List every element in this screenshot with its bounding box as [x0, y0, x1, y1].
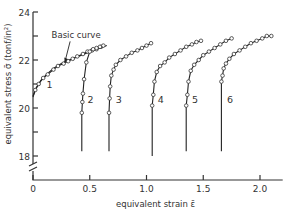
curve-number-label: 3 — [116, 94, 122, 105]
chart-svg: 1820222400.51.01.52.0equivalent strain ε… — [0, 0, 301, 212]
data-point-marker — [184, 45, 188, 49]
data-point-marker — [81, 92, 85, 96]
data-point-marker — [33, 88, 37, 92]
data-point-marker — [190, 43, 194, 47]
data-point-marker — [81, 52, 85, 56]
data-point-marker — [158, 64, 162, 68]
data-point-marker — [230, 37, 234, 41]
data-point-marker — [145, 44, 149, 48]
x-axis-title: equivalent strain ε̄ — [116, 199, 196, 209]
series-6 — [220, 34, 274, 151]
curve-line — [33, 46, 107, 96]
y-tick-label: 18 — [19, 152, 31, 162]
curve-number-label: 5 — [192, 94, 198, 105]
x-tick-label: 0.5 — [83, 184, 97, 194]
data-point-marker — [80, 111, 84, 115]
data-point-marker — [224, 39, 228, 43]
data-point-marker — [249, 41, 253, 45]
data-point-marker — [243, 45, 247, 49]
data-point-marker — [112, 68, 116, 72]
data-point-marker — [75, 55, 79, 59]
data-point-marker — [213, 46, 217, 50]
data-point-marker — [192, 63, 196, 67]
basic-curve-label: Basic curve — [52, 30, 101, 40]
data-point-marker — [173, 52, 177, 56]
data-point-marker — [124, 55, 128, 59]
data-point-marker — [52, 68, 56, 72]
data-point-marker — [218, 43, 222, 47]
y-tick-label: 24 — [19, 8, 31, 18]
data-point-marker — [222, 67, 226, 71]
data-point-marker — [153, 80, 157, 84]
x-tick-label: 2.0 — [253, 184, 268, 194]
data-point-marker — [88, 50, 92, 54]
data-point-marker — [184, 104, 188, 108]
data-point-marker — [102, 44, 106, 48]
data-point-marker — [207, 50, 211, 54]
data-point-marker — [255, 39, 259, 43]
data-point-marker — [179, 49, 183, 53]
y-tick-label: 20 — [19, 104, 31, 114]
stress-strain-chart: 1820222400.51.01.52.0equivalent strain ε… — [0, 0, 301, 212]
data-point-marker — [114, 63, 118, 67]
curve-number-label: 6 — [227, 94, 233, 105]
annotations: Basic curve123456 — [47, 30, 234, 105]
data-point-marker — [140, 46, 144, 50]
data-point-marker — [56, 64, 60, 68]
data-point-marker — [201, 53, 205, 57]
data-point-marker — [136, 49, 140, 53]
data-point-marker — [155, 70, 159, 74]
data-point-marker — [149, 41, 153, 45]
axes: 1820222400.51.01.52.0equivalent strain ε… — [3, 8, 283, 210]
series-basic-curve — [33, 46, 107, 96]
data-point-marker — [260, 37, 264, 41]
data-point-marker — [197, 58, 201, 62]
data-point-marker — [163, 61, 167, 65]
data-point-marker — [107, 111, 111, 115]
data-point-marker — [220, 80, 224, 84]
data-point-marker — [232, 52, 236, 56]
data-point-marker — [152, 93, 156, 97]
data-point-marker — [85, 61, 89, 65]
x-tick-label: 1.5 — [196, 184, 210, 194]
data-point-marker — [195, 40, 199, 44]
curve-number-label: 1 — [47, 79, 53, 90]
data-point-marker — [81, 100, 85, 104]
curve-number-label: 4 — [158, 94, 164, 105]
data-point-marker — [167, 56, 171, 60]
data-point-marker — [228, 57, 232, 61]
data-point-marker — [37, 82, 41, 86]
data-point-marker — [221, 74, 225, 78]
series-3 — [107, 41, 153, 151]
data-point-marker — [199, 39, 203, 43]
axis-break-icon — [29, 162, 37, 171]
data-point-marker — [187, 80, 191, 84]
data-point-marker — [130, 51, 134, 55]
data-point-marker — [265, 34, 269, 38]
y-axis-title: equivalent stress σ̄ (tonf/in²) — [3, 23, 13, 144]
data-point-marker — [224, 62, 228, 66]
data-point-marker — [119, 58, 123, 62]
data-point-marker — [71, 57, 75, 61]
data-point-marker — [150, 104, 154, 108]
data-point-marker — [41, 76, 45, 80]
data-point-marker — [110, 74, 114, 78]
data-point-marker — [108, 97, 112, 101]
data-point-marker — [186, 93, 190, 97]
data-point-marker — [270, 34, 274, 38]
y-tick-label: 22 — [19, 56, 30, 66]
data-point-marker — [66, 59, 70, 63]
curve-number-label: 2 — [87, 94, 93, 105]
data-series — [33, 34, 273, 156]
series-1 — [33, 45, 103, 97]
data-point-marker — [46, 73, 50, 77]
data-point-marker — [82, 77, 86, 81]
x-tick-label: 1.0 — [139, 184, 154, 194]
x-tick-label: 0 — [30, 184, 36, 194]
data-point-marker — [108, 85, 112, 89]
data-point-marker — [238, 49, 242, 53]
data-point-marker — [189, 69, 193, 73]
